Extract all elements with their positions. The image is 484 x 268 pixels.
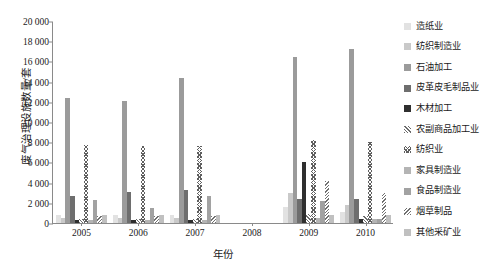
x-axis-tick-label: 2006 — [129, 228, 148, 238]
legend-item-label: 纺织业 — [416, 145, 443, 154]
legend-item[interactable]: 造纸业 — [404, 16, 484, 37]
bar — [127, 192, 132, 223]
x-axis-tick-label: 2010 — [356, 228, 375, 238]
legend-item-label: 皮革皮毛制品业 — [416, 83, 479, 92]
bar-group: 2005 — [53, 22, 110, 223]
bar-group-bars — [224, 22, 281, 223]
bar-group: 2010 — [337, 22, 394, 223]
legend-item-label: 石油加工 — [416, 63, 452, 72]
x-axis-tick-label: 2007 — [186, 228, 205, 238]
x-axis-tick-label: 2008 — [242, 228, 261, 238]
legend-swatch-icon — [404, 167, 411, 174]
x-axis-title: 年份 — [52, 246, 393, 261]
bar — [159, 215, 164, 223]
legend-item[interactable]: 纺织制造业 — [404, 37, 484, 58]
legend-swatch-icon — [404, 208, 411, 215]
x-axis-tick-mark — [366, 223, 367, 226]
x-axis-tick-mark — [195, 223, 196, 226]
legend-item[interactable]: 家具制造业 — [404, 160, 484, 181]
bar-group: 2006 — [110, 22, 167, 223]
x-axis-tick-mark — [252, 223, 253, 226]
x-axis-tick-label: 2005 — [72, 228, 91, 238]
bar — [349, 49, 354, 223]
legend-item[interactable]: 其他采矿业 — [404, 222, 484, 243]
plot-area: 02 0004 0006 0008 00010 00012 00014 0001… — [52, 22, 393, 224]
bar — [329, 215, 334, 223]
legend-swatch-icon — [404, 43, 411, 50]
bar-group: 2007 — [167, 22, 224, 223]
bar — [84, 145, 89, 223]
bar-group-bars — [110, 22, 167, 223]
legend-swatch-icon — [404, 105, 411, 112]
bar — [184, 190, 189, 223]
bar-group-bars — [53, 22, 110, 223]
bar-group-bars — [167, 22, 224, 223]
legend-swatch-icon — [404, 188, 411, 195]
legend-item-label: 纺织制造业 — [416, 42, 461, 51]
bar-group-bars — [280, 22, 337, 223]
legend-swatch-icon — [404, 64, 411, 71]
legend-item-label: 木材加工 — [416, 104, 452, 113]
legend-item[interactable]: 食品制造业 — [404, 181, 484, 202]
bar-group: 2009 — [280, 22, 337, 223]
legend-item-label: 食品制造业 — [416, 186, 461, 195]
bar — [368, 142, 373, 223]
legend-item-label: 农副商品加工业 — [416, 125, 479, 134]
bar — [386, 215, 391, 223]
legend-swatch-icon — [404, 146, 411, 153]
legend-swatch-icon — [404, 85, 411, 92]
legend-swatch-icon — [404, 229, 411, 236]
legend-swatch-icon — [404, 23, 411, 30]
legend-item-label: 其他采矿业 — [416, 228, 461, 237]
legend-item-label: 烟草制品 — [416, 207, 452, 216]
legend-item[interactable]: 木材加工 — [404, 98, 484, 119]
bar-group-bars — [337, 22, 394, 223]
legend-item[interactable]: 农副商品加工业 — [404, 119, 484, 140]
y-axis-tick-mark — [49, 224, 53, 225]
bar — [141, 146, 146, 223]
legend-item-label: 家具制造业 — [416, 166, 461, 175]
bar — [216, 215, 221, 223]
chart-legend: 造纸业纺织制造业石油加工皮革皮毛制品业木材加工农副商品加工业纺织业家具制造业食品… — [404, 16, 484, 243]
legend-item[interactable]: 烟草制品 — [404, 201, 484, 222]
x-axis-tick-mark — [138, 223, 139, 226]
x-axis-tick-label: 2009 — [299, 228, 318, 238]
legend-item[interactable]: 石油加工 — [404, 57, 484, 78]
x-axis-tick-mark — [81, 223, 82, 226]
bar-group: 2008 — [224, 22, 281, 223]
bar — [311, 140, 316, 223]
legend-item[interactable]: 纺织业 — [404, 140, 484, 161]
bar — [197, 146, 202, 223]
bar-chart-figure: 废气治理设施数量/套 02 0004 0006 0008 00010 00012… — [0, 0, 484, 268]
legend-item-label: 造纸业 — [416, 22, 443, 31]
legend-swatch-icon — [404, 126, 411, 133]
bar — [102, 215, 107, 223]
x-axis-tick-mark — [309, 223, 310, 226]
legend-item[interactable]: 皮革皮毛制品业 — [404, 78, 484, 99]
